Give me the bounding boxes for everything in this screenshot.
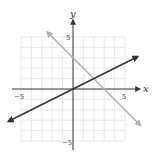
coordinate-plane: x y −5 5 5 −5 bbox=[0, 0, 154, 160]
x-axis-label: x bbox=[143, 83, 149, 94]
x-tick-max: 5 bbox=[122, 93, 126, 101]
y-axis-label: y bbox=[69, 8, 76, 19]
y-tick-max: 5 bbox=[66, 34, 70, 42]
x-tick-min: −5 bbox=[14, 93, 24, 101]
y-tick-min: −5 bbox=[62, 139, 72, 147]
